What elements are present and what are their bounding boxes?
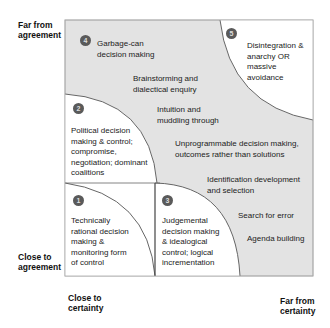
region-1-label: Technically rational decision making & m…	[71, 216, 135, 269]
region-1-badge: 1	[73, 195, 84, 206]
zone-item-intuition: Intuition and muddling through	[157, 105, 229, 126]
region-3-label: Judgemental decision making & idealogica…	[162, 216, 220, 269]
region-2-label: Political decision making & control; com…	[71, 126, 151, 179]
region-4-label: Garbage-can decision making	[97, 39, 167, 60]
region-5-badge: 5	[226, 28, 237, 39]
zone-item-search-for-error: Search for error	[238, 211, 308, 222]
region-3-badge: 3	[162, 195, 173, 206]
region-2-badge: 2	[73, 103, 84, 114]
region-4-badge: 4	[80, 35, 91, 46]
zone-item-unprogrammable: Unprogrammable decision making, outcomes…	[175, 139, 310, 160]
region-5-label: Disintegration & anarchy OR massive avoi…	[247, 41, 309, 83]
zone-item-agenda-building: Agenda building	[247, 234, 311, 245]
zone-item-identification: Identification development and selection	[207, 175, 307, 196]
zone-item-brainstorming: Brainstorming and dialectical enquiry	[133, 74, 213, 95]
